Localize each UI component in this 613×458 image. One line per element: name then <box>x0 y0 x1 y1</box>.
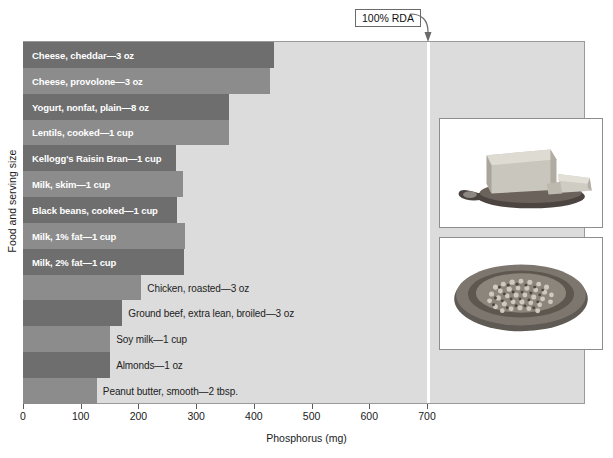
x-tick-label: 400 <box>245 410 263 422</box>
x-tick <box>196 404 197 409</box>
bar-label: Milk, 2% fat—1 cup <box>32 256 116 267</box>
x-tick <box>312 404 313 409</box>
x-tick <box>369 404 370 409</box>
bar <box>23 300 122 326</box>
bar-row: Cheese, cheddar—3 oz <box>23 42 585 68</box>
x-tick-label: 500 <box>303 410 321 422</box>
bar <box>23 378 97 404</box>
lentils-photo <box>439 237 603 350</box>
bar-row: Almonds—1 oz <box>23 352 585 378</box>
bar-label: Lentils, cooked—1 cup <box>32 127 133 138</box>
bar-label: Peanut butter, smooth—2 tbsp. <box>103 385 238 396</box>
x-tick <box>427 404 428 409</box>
bar-label: Ground beef, extra lean, broiled—3 oz <box>128 308 294 319</box>
x-tick-label: 200 <box>130 410 148 422</box>
x-tick <box>254 404 255 409</box>
bar-label: Soy milk—1 cup <box>116 334 187 345</box>
bar-label: Black beans, cooked—1 cup <box>32 204 158 215</box>
x-tick-label: 600 <box>361 410 379 422</box>
rda-annotation-arrow <box>408 8 448 48</box>
x-tick-label: 100 <box>72 410 90 422</box>
bar-label: Kellogg's Raisin Bran—1 cup <box>32 153 161 164</box>
x-tick <box>138 404 139 409</box>
bar-label: Almonds—1 oz <box>116 360 183 371</box>
x-axis-tick-labels: 0100200300400500600700 <box>0 410 613 426</box>
bar-row: Cheese, provolone—3 oz <box>23 68 585 94</box>
bar-label: Chicken, roasted—3 oz <box>147 282 249 293</box>
bar-label: Cheese, provolone—3 oz <box>32 75 143 86</box>
cheese-photo <box>439 118 603 228</box>
bar <box>23 275 141 301</box>
x-tick-label: 700 <box>418 410 436 422</box>
x-tick <box>81 404 82 409</box>
y-axis-title: Food and serving size <box>6 131 18 271</box>
bar <box>23 326 110 352</box>
bar-label: Yogurt, nonfat, plain—8 oz <box>32 101 149 112</box>
x-tick-label: 0 <box>20 410 26 422</box>
x-axis-title: Phosphorus (mg) <box>0 432 613 444</box>
x-tick-label: 300 <box>187 410 205 422</box>
bar-label: Milk, 1% fat—1 cup <box>32 230 116 241</box>
x-tick <box>23 404 24 409</box>
bar-label: Milk, skim—1 cup <box>32 179 110 190</box>
bar-row: Yogurt, nonfat, plain—8 oz <box>23 94 585 120</box>
bar-label: Cheese, cheddar—3 oz <box>32 49 134 60</box>
bar-row: Peanut butter, smooth—2 tbsp. <box>23 378 585 404</box>
bar <box>23 352 110 378</box>
